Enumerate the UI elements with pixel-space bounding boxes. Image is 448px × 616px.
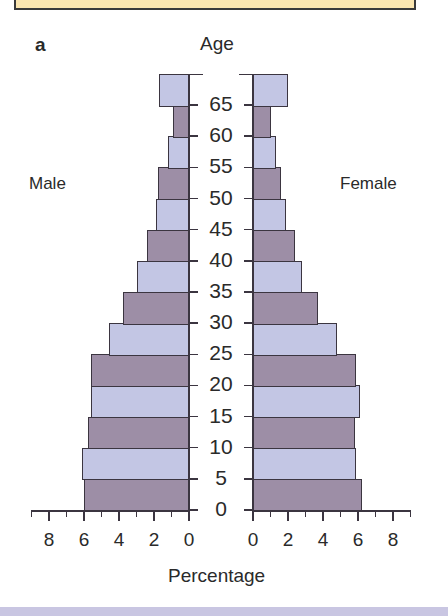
x-tick-label-male: 2 [142,529,166,551]
x-tick-female [340,510,342,517]
x-tick-female [357,510,359,521]
age-tick-right [244,447,253,449]
male-bar [137,261,190,294]
x-tick-label-female: 4 [311,529,335,551]
male-label: Male [29,174,66,194]
x-tick-label-male: 8 [37,529,61,551]
x-tick-female [252,510,254,521]
age-tick-left [189,509,198,511]
female-x-axis [253,510,411,512]
age-label: 40 [201,248,241,272]
y-axis-title: Age [200,33,234,55]
age-tick-left [189,260,198,262]
age-tick-left [189,385,198,387]
male-bar [159,74,190,107]
age-label: 65 [201,92,241,116]
male-bar [109,323,191,356]
x-tick-female [375,510,377,517]
x-tick-male [171,510,173,517]
male-bar [84,479,190,512]
age-tick-right [244,104,253,106]
x-tick-male [136,510,138,517]
female-bar [252,417,355,450]
x-tick-female [322,510,324,521]
x-tick-male [83,510,85,521]
x-tick-male [48,510,50,521]
male-x-axis [32,510,190,512]
female-bar [252,479,362,512]
age-tick-right [244,478,253,480]
x-tick-female [410,510,412,517]
female-bar [252,292,318,325]
male-bar [123,292,190,325]
panel-label: a [35,34,46,56]
age-tick-right [244,416,253,418]
male-bar [156,199,190,232]
x-tick-male [118,510,120,521]
age-tick-right [244,354,253,356]
male-bar [91,354,190,387]
x-tick-male [66,510,68,517]
age-tick-right [244,385,253,387]
male-bar [82,448,190,481]
age-label: 25 [201,341,241,365]
female-bar [252,230,295,263]
top-tick-left [189,74,203,76]
x-tick-label-female: 0 [241,529,265,551]
age-label: 45 [201,217,241,241]
top-tick-right [239,74,253,76]
x-tick-male [153,510,155,521]
age-label: 60 [201,123,241,147]
age-tick-left [189,104,198,106]
x-tick-label-female: 8 [381,529,405,551]
female-bar [252,199,286,232]
male-bar [147,230,190,263]
x-tick-female [287,510,289,521]
age-tick-left [189,198,198,200]
x-tick-female [270,510,272,517]
age-tick-left [189,447,198,449]
age-label: 30 [201,310,241,334]
age-label: 5 [201,466,241,490]
age-label: 35 [201,279,241,303]
age-tick-right [244,198,253,200]
age-tick-left [189,291,198,293]
x-tick-label-female: 2 [276,529,300,551]
bottom-band [0,607,448,616]
age-tick-right [244,229,253,231]
age-tick-right [244,322,253,324]
x-tick-female [305,510,307,517]
x-tick-label-male: 6 [72,529,96,551]
caption-box [14,0,416,10]
age-label: 20 [201,372,241,396]
male-bar [88,417,191,450]
female-bar [252,354,356,387]
age-tick-left [189,478,198,480]
female-bar [252,385,360,418]
x-tick-label-male: 4 [107,529,131,551]
female-bar [252,136,276,169]
female-label: Female [340,174,397,194]
female-bar [252,105,271,138]
female-bar [252,167,281,200]
age-label: 10 [201,435,241,459]
female-bar [252,74,288,107]
x-tick-male [31,510,33,517]
age-tick-right [244,167,253,169]
age-tick-left [189,135,198,137]
age-tick-left [189,167,198,169]
age-tick-left [189,322,198,324]
age-label: 50 [201,186,241,210]
age-tick-left [189,354,198,356]
age-label: 55 [201,154,241,178]
x-tick-male [188,510,190,521]
age-tick-right [244,260,253,262]
age-tick-left [189,416,198,418]
female-bar [252,323,337,356]
x-tick-female [392,510,394,521]
x-tick-label-male: 0 [177,529,201,551]
male-bar [91,385,190,418]
female-bar [252,261,302,294]
x-tick-male [101,510,103,517]
male-bar [168,136,190,169]
